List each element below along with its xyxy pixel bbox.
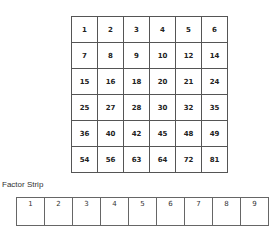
grid-cell[interactable]: 30 bbox=[150, 95, 176, 121]
grid-cell[interactable]: 32 bbox=[176, 95, 202, 121]
grid-cell[interactable]: 10 bbox=[150, 43, 176, 69]
grid-row: 252728303235 bbox=[72, 95, 228, 121]
grid-cell[interactable]: 35 bbox=[202, 95, 228, 121]
grid-cell[interactable]: 3 bbox=[124, 17, 150, 43]
grid-cell[interactable]: 21 bbox=[176, 69, 202, 95]
grid-row: 545663647281 bbox=[72, 147, 228, 173]
grid-cell[interactable]: 27 bbox=[98, 95, 124, 121]
factor-strip-cell[interactable]: 7 bbox=[185, 198, 213, 226]
grid-cell[interactable]: 16 bbox=[98, 69, 124, 95]
grid-cell[interactable]: 7 bbox=[72, 43, 98, 69]
grid-cell[interactable]: 72 bbox=[176, 147, 202, 173]
grid-cell[interactable]: 18 bbox=[124, 69, 150, 95]
factor-strip-cell[interactable]: 9 bbox=[241, 198, 269, 226]
grid-cell[interactable]: 25 bbox=[72, 95, 98, 121]
grid-cell[interactable]: 15 bbox=[72, 69, 98, 95]
product-grid: 1234567891012141516182021242527283032353… bbox=[71, 16, 228, 173]
factor-strip-cell[interactable]: 5 bbox=[129, 198, 157, 226]
factor-strip-cell[interactable]: 6 bbox=[157, 198, 185, 226]
grid-cell[interactable]: 64 bbox=[150, 147, 176, 173]
grid-cell[interactable]: 9 bbox=[124, 43, 150, 69]
grid-cell[interactable]: 5 bbox=[176, 17, 202, 43]
grid-cell[interactable]: 49 bbox=[202, 121, 228, 147]
factor-strip-cell[interactable]: 2 bbox=[45, 198, 73, 226]
grid-cell[interactable]: 45 bbox=[150, 121, 176, 147]
grid-row: 364042454849 bbox=[72, 121, 228, 147]
grid-cell[interactable]: 42 bbox=[124, 121, 150, 147]
grid-row: 151618202124 bbox=[72, 69, 228, 95]
grid-cell[interactable]: 81 bbox=[202, 147, 228, 173]
factor-strip-cell[interactable]: 4 bbox=[101, 198, 129, 226]
grid-cell[interactable]: 56 bbox=[98, 147, 124, 173]
grid-cell[interactable]: 48 bbox=[176, 121, 202, 147]
factor-strip-label: Factor Strip bbox=[2, 180, 43, 189]
factor-strip-cell[interactable]: 1 bbox=[17, 198, 45, 226]
factor-strip-cell[interactable]: 8 bbox=[213, 198, 241, 226]
grid-cell[interactable]: 28 bbox=[124, 95, 150, 121]
grid-row: 123456 bbox=[72, 17, 228, 43]
grid-cell[interactable]: 14 bbox=[202, 43, 228, 69]
grid-row: 789101214 bbox=[72, 43, 228, 69]
grid-cell[interactable]: 8 bbox=[98, 43, 124, 69]
grid-cell[interactable]: 1 bbox=[72, 17, 98, 43]
grid-cell[interactable]: 12 bbox=[176, 43, 202, 69]
grid-cell[interactable]: 2 bbox=[98, 17, 124, 43]
factor-strip-cell[interactable]: 3 bbox=[73, 198, 101, 226]
grid-cell[interactable]: 36 bbox=[72, 121, 98, 147]
grid-cell[interactable]: 4 bbox=[150, 17, 176, 43]
factor-strip: 123456789 bbox=[16, 197, 269, 226]
grid-cell[interactable]: 6 bbox=[202, 17, 228, 43]
grid-cell[interactable]: 54 bbox=[72, 147, 98, 173]
grid-cell[interactable]: 24 bbox=[202, 69, 228, 95]
grid-cell[interactable]: 63 bbox=[124, 147, 150, 173]
grid-cell[interactable]: 40 bbox=[98, 121, 124, 147]
grid-cell[interactable]: 20 bbox=[150, 69, 176, 95]
